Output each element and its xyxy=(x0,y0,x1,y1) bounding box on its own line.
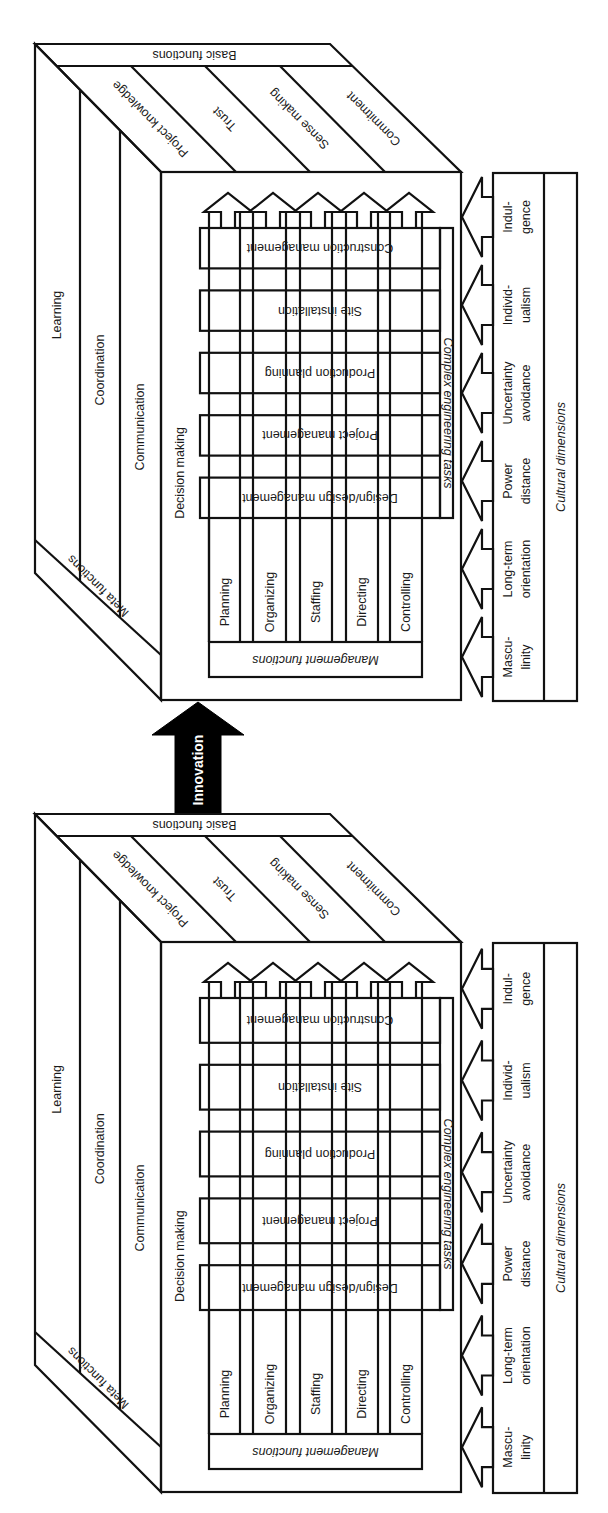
cultural-dimension-item: Uncertainty xyxy=(501,361,515,425)
cultural-influence-arrow xyxy=(462,177,493,257)
task-box-label: Production planning xyxy=(265,366,376,380)
cultural-dimension-item: Indul- xyxy=(501,973,515,1004)
cube-after-innovation: Basic functionsProject knowledgeTrustSen… xyxy=(35,44,577,701)
task-up-arrow xyxy=(385,193,433,228)
task-up-arrow xyxy=(249,193,297,228)
task-box-label: Project management xyxy=(262,1214,378,1228)
cultural-influence-arrow xyxy=(462,529,493,609)
cultural-dimension-item: Mascu- xyxy=(501,637,515,678)
cultural-influence-arrow xyxy=(462,1041,493,1121)
cultural-influence-arrow xyxy=(462,353,493,433)
task-box-label: Construction management xyxy=(246,1013,393,1027)
management-functions-label: Management functions xyxy=(252,653,378,667)
task-box-label: Design/design management xyxy=(242,491,398,505)
cultural-influence-arrow xyxy=(462,1407,493,1487)
cultural-dimension-item: Indul- xyxy=(501,201,515,232)
cultural-dimension-item: Individ- xyxy=(501,285,515,325)
cultural-dimension-item: Long-term xyxy=(501,541,515,598)
task-box-label: Project management xyxy=(262,428,378,442)
management-function-item: Controlling xyxy=(399,572,413,632)
task-up-arrow xyxy=(294,963,342,998)
meta-function-decision-making: Decision making xyxy=(173,1210,187,1302)
meta-function-coordination: Coordination xyxy=(93,335,107,406)
meta-functions-label: Meta functions xyxy=(64,552,131,619)
cultural-dimensions-label: Cultural dimensions xyxy=(554,402,568,512)
task-up-arrow xyxy=(340,963,388,998)
basic-functions-label: Basic functions xyxy=(152,818,236,832)
cultural-dimension-item: Uncertainty xyxy=(501,1140,515,1204)
cultural-dimension-item: Power xyxy=(501,463,515,498)
cultural-influence-arrow xyxy=(462,1316,493,1396)
meta-function-learning: Learning xyxy=(50,1065,64,1114)
complex-engineering-tasks-label: Complex engineering tasks xyxy=(441,338,455,489)
management-function-item: Staffing xyxy=(309,581,323,623)
task-box-label: Site installation xyxy=(278,304,362,318)
task-box-label: Production planning xyxy=(265,1147,376,1161)
management-function-item: Planning xyxy=(218,578,232,627)
innovation-arrow: Innovation xyxy=(152,702,244,814)
cultural-influence-arrow xyxy=(462,1132,493,1212)
meta-function-communication: Communication xyxy=(133,384,147,471)
task-up-arrow xyxy=(340,193,388,228)
cultural-dimension-item: Mascu- xyxy=(501,1427,515,1468)
cultural-dimension-item: orientation xyxy=(519,540,533,598)
task-up-arrow xyxy=(204,963,252,998)
task-box-label: Construction management xyxy=(246,241,393,255)
management-function-item: Planning xyxy=(218,1370,232,1419)
meta-functions-label: Meta functions xyxy=(64,1344,131,1411)
basic-function-item: Project knowledge xyxy=(109,78,191,160)
task-box-label: Design/design management xyxy=(242,1281,398,1295)
cultural-dimension-item: orientation xyxy=(519,1326,533,1384)
task-box-label: Site installation xyxy=(278,1080,362,1094)
cultural-influence-arrow xyxy=(462,617,493,697)
basic-function-item: Trust xyxy=(209,874,239,904)
meta-function-learning: Learning xyxy=(50,291,64,340)
management-function-item: Directing xyxy=(355,577,369,626)
meta-function-decision-making: Decision making xyxy=(173,427,187,519)
cultural-dimension-item: ualism xyxy=(519,1062,533,1098)
meta-function-coordination: Coordination xyxy=(93,1113,107,1184)
cultural-dimension-item: avoidance xyxy=(519,364,533,421)
cultural-dimension-item: gence xyxy=(519,200,533,234)
cultural-influence-arrow xyxy=(462,949,493,1029)
cultural-dimension-item: linity xyxy=(519,1434,533,1460)
cube-before-innovation: Basic functionsProject knowledgeTrustSen… xyxy=(35,814,577,1493)
management-functions-label: Management functions xyxy=(252,1445,378,1459)
cultural-dimensions-label: Cultural dimensions xyxy=(554,1183,568,1293)
complex-engineering-tasks-label: Complex engineering tasks xyxy=(441,1119,455,1270)
cultural-influence-arrow xyxy=(462,265,493,345)
cultural-dimension-item: gence xyxy=(519,972,533,1006)
task-up-arrow xyxy=(294,193,342,228)
basic-function-item: Sense making xyxy=(266,856,332,922)
management-function-item: Directing xyxy=(355,1369,369,1418)
task-up-arrow xyxy=(204,193,252,228)
cultural-dimension-item: distance xyxy=(519,1241,533,1288)
cultural-dimension-item: Individ- xyxy=(501,1060,515,1100)
management-function-item: Controlling xyxy=(399,1364,413,1424)
diagram-canvas: Basic functionsProject knowledgeTrustSen… xyxy=(0,0,608,1513)
basic-function-item: Trust xyxy=(209,104,239,134)
task-up-arrow xyxy=(249,963,297,998)
task-up-arrow xyxy=(385,963,433,998)
innovation-label: Innovation xyxy=(190,735,206,806)
cultural-dimension-item: avoidance xyxy=(519,1144,533,1201)
cultural-influence-arrow xyxy=(462,441,493,521)
cultural-dimension-item: distance xyxy=(519,458,533,505)
basic-functions-label: Basic functions xyxy=(152,48,236,62)
management-function-item: Organizing xyxy=(263,572,277,632)
cultural-dimension-item: Long-term xyxy=(501,1327,515,1384)
management-function-item: Organizing xyxy=(263,1364,277,1424)
meta-function-communication: Communication xyxy=(133,1165,147,1252)
cultural-influence-arrow xyxy=(462,1224,493,1304)
cultural-dimension-item: ualism xyxy=(519,287,533,323)
cultural-dimension-item: linity xyxy=(519,644,533,670)
basic-function-item: Project knowledge xyxy=(109,848,191,930)
basic-function-item: Sense making xyxy=(266,86,332,152)
cultural-dimension-item: Power xyxy=(501,1246,515,1281)
management-function-item: Staffing xyxy=(309,1373,323,1415)
